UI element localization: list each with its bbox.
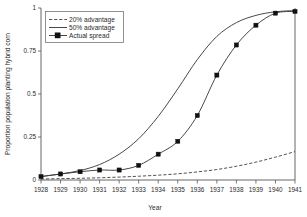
chart-figure: 0 0.25 0.5 0.75 1 1928 1929 1930 1931 (0, 0, 307, 217)
data-point-marker (273, 11, 277, 15)
data-point-marker (293, 9, 297, 13)
x-tick-label-1929: 1929 (53, 186, 68, 193)
x-tick-label-1937: 1937 (210, 186, 225, 193)
x-tick-label-1939: 1939 (249, 186, 264, 193)
x-tick-label-1932: 1932 (112, 186, 127, 193)
y-axis-title: Proportion population planting hybrid co… (4, 33, 12, 155)
y-axis-ticks: 0 0.25 0.5 0.75 1 (24, 4, 41, 183)
data-point-marker (195, 113, 199, 117)
y-tick-label-0: 0 (32, 176, 36, 183)
x-tick-label-1931: 1931 (93, 186, 108, 193)
series-line-20-advantage (41, 152, 295, 179)
x-tick-label-1928: 1928 (34, 186, 49, 193)
data-point-marker (156, 152, 160, 156)
x-tick-label-1930: 1930 (73, 186, 88, 193)
y-tick-label-025: 0.25 (24, 133, 37, 140)
data-point-marker (58, 172, 62, 176)
y-tick-label-1: 1 (32, 4, 36, 11)
data-point-marker (176, 139, 180, 143)
legend-label-20-advantage: 20% advantage (69, 16, 115, 24)
x-tick-label-1934: 1934 (151, 186, 166, 193)
x-tick-label-1933: 1933 (132, 186, 147, 193)
x-tick-label-1941: 1941 (288, 186, 303, 193)
data-point-marker (117, 168, 121, 172)
legend-label-actual-spread: Actual spread (69, 32, 110, 40)
x-tick-label-1935: 1935 (171, 186, 186, 193)
data-point-marker (137, 163, 141, 167)
data-point-marker (215, 73, 219, 77)
x-axis-ticks: 1928 1929 1930 1931 1932 1933 1934 1935 … (34, 180, 303, 193)
data-point-marker (254, 23, 258, 27)
data-point-marker (234, 43, 238, 47)
line-chart: 0 0.25 0.5 0.75 1 1928 1929 1930 1931 (0, 0, 307, 217)
x-tick-label-1938: 1938 (229, 186, 244, 193)
y-tick-label-075: 0.75 (24, 47, 37, 54)
legend-label-50-advantage: 50% advantage (69, 24, 115, 32)
x-tick-label-1940: 1940 (268, 186, 283, 193)
y-tick-label-05: 0.5 (27, 90, 36, 97)
data-point-marker (39, 174, 43, 178)
data-point-marker (98, 168, 102, 172)
data-point-marker (78, 170, 82, 174)
x-axis-title: Year (148, 204, 162, 211)
x-tick-label-1936: 1936 (190, 186, 205, 193)
legend: 20% advantage 50% advantage Actual sprea… (46, 12, 124, 43)
legend-marker-actual-spread (55, 33, 60, 38)
